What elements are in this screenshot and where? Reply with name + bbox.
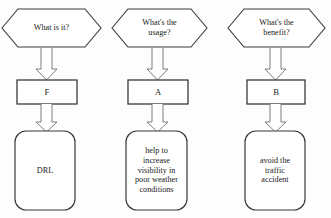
hexagon-shape-column-3 bbox=[228, 9, 325, 47]
hexagon-shape-column-2 bbox=[112, 9, 207, 47]
cropped-header-text-fragment bbox=[150, 0, 331, 5]
rectangle-shape-column-2 bbox=[128, 80, 188, 104]
down-arrow-shape-column-1-upper bbox=[36, 48, 57, 80]
rounded-rectangle-shape-column-3 bbox=[245, 131, 305, 210]
rounded-rectangle-shape-column-1 bbox=[15, 131, 75, 210]
rectangle-shape-column-3 bbox=[247, 80, 305, 104]
hexagon-shape-column-1 bbox=[2, 9, 101, 47]
down-arrow-shape-column-1-lower bbox=[36, 104, 57, 132]
down-arrow-shape-column-3-upper bbox=[265, 48, 286, 80]
flowchart-diagram: What is it? F DRL What's the usage? A he… bbox=[0, 0, 331, 218]
diagram-canvas bbox=[0, 0, 331, 218]
rounded-rectangle-shape-column-2 bbox=[126, 131, 187, 210]
down-arrow-shape-column-2-upper bbox=[147, 48, 168, 80]
rectangle-shape-column-1 bbox=[17, 80, 77, 104]
down-arrow-shape-column-2-lower bbox=[147, 104, 168, 132]
down-arrow-shape-column-3-lower bbox=[265, 104, 286, 132]
